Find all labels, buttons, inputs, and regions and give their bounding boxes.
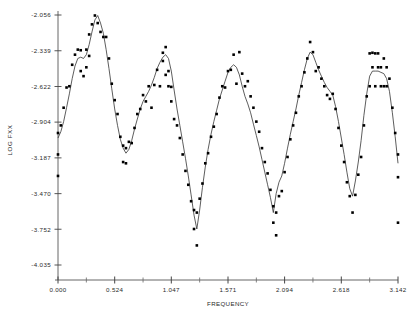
data-point-marker	[380, 85, 383, 88]
data-point-marker	[153, 84, 156, 87]
data-point-marker	[122, 144, 125, 147]
data-point-marker	[116, 113, 119, 116]
data-point-marker	[363, 124, 366, 127]
data-point-marker	[377, 52, 380, 55]
data-point-marker	[68, 85, 71, 88]
data-point-marker	[204, 162, 207, 165]
data-point-marker	[388, 77, 391, 80]
x-tick-label: 1.047	[163, 286, 180, 293]
data-point-marker	[62, 106, 65, 109]
data-point-marker	[108, 57, 111, 60]
data-point-marker	[326, 94, 329, 97]
y-tick-label: -2.056	[31, 11, 51, 18]
data-point-marker	[374, 85, 377, 88]
data-point-marker	[122, 161, 125, 164]
data-point-marker	[249, 95, 252, 98]
data-point-marker	[88, 33, 91, 36]
data-point-marker	[94, 14, 97, 17]
data-point-marker	[280, 190, 283, 193]
data-point-marker	[374, 52, 377, 55]
y-tick-label: -2.622	[31, 83, 51, 90]
data-point-marker	[303, 71, 306, 74]
data-point-marker	[314, 70, 317, 73]
data-point-marker	[139, 108, 142, 111]
y-tick-label: -3.470	[31, 190, 51, 197]
data-point-marker	[57, 175, 60, 178]
data-point-marker	[238, 51, 241, 54]
data-point-marker	[170, 100, 173, 103]
data-point-marker	[57, 153, 60, 156]
data-point-marker	[368, 52, 371, 55]
data-point-marker	[306, 57, 309, 60]
data-point-marker	[184, 170, 187, 173]
data-point-marker	[346, 181, 349, 184]
data-point-marker	[79, 49, 82, 52]
data-point-marker	[377, 66, 380, 69]
data-point-marker	[385, 85, 388, 88]
data-point-marker	[360, 156, 363, 159]
data-point-marker	[99, 31, 102, 34]
data-point-marker	[85, 48, 88, 51]
data-point-marker	[289, 138, 292, 141]
data-point-marker	[334, 108, 337, 111]
data-point-marker	[343, 161, 346, 164]
data-point-marker	[218, 96, 221, 99]
data-point-marker	[119, 135, 122, 138]
data-point-marker	[213, 125, 216, 128]
data-point-marker	[383, 57, 386, 60]
data-point-marker	[162, 60, 165, 63]
data-point-marker	[272, 205, 275, 208]
y-tick-label: -2.904	[31, 118, 51, 125]
data-point-marker	[385, 66, 388, 69]
data-point-marker	[297, 95, 300, 98]
data-point-marker	[207, 152, 210, 155]
data-point-marker	[394, 132, 397, 135]
data-point-marker	[198, 197, 201, 200]
data-point-marker	[77, 48, 80, 51]
data-point-marker	[266, 172, 269, 175]
data-point-marker	[196, 244, 199, 247]
y-tick-label: -2.339	[31, 47, 51, 54]
data-point-marker	[230, 69, 233, 72]
data-point-marker	[142, 94, 145, 97]
data-point-marker	[354, 194, 357, 197]
data-point-marker	[201, 182, 204, 185]
data-point-marker	[258, 130, 261, 133]
data-point-marker	[167, 85, 170, 88]
data-point-marker	[193, 228, 196, 231]
data-point-marker	[283, 171, 286, 174]
data-point-marker	[397, 153, 400, 156]
data-point-marker	[269, 189, 272, 192]
x-tick-label: 0.000	[49, 286, 66, 293]
chart-background	[0, 0, 408, 321]
data-point-marker	[162, 51, 165, 54]
data-point-marker	[272, 221, 275, 224]
data-point-marker	[85, 66, 88, 69]
data-point-marker	[150, 106, 153, 109]
data-point-marker	[145, 100, 148, 103]
data-point-marker	[65, 86, 68, 89]
data-point-marker	[380, 66, 383, 69]
data-point-marker	[91, 23, 94, 26]
data-point-marker	[113, 99, 116, 102]
data-point-marker	[179, 137, 182, 140]
y-tick-label: -3.187	[31, 154, 51, 161]
data-point-marker	[368, 85, 371, 88]
data-point-marker	[317, 66, 320, 69]
data-point-marker	[224, 86, 227, 89]
data-point-marker	[312, 51, 315, 54]
x-tick-label: 3.142	[389, 286, 406, 293]
data-point-marker	[357, 173, 360, 176]
data-point-marker	[136, 113, 139, 116]
data-point-marker	[371, 66, 374, 69]
data-point-marker	[331, 93, 334, 96]
data-point-marker	[252, 106, 255, 109]
data-point-marker	[340, 144, 343, 147]
data-point-marker	[170, 86, 173, 89]
data-point-marker	[181, 153, 184, 156]
data-point-marker	[105, 36, 108, 39]
data-point-marker	[232, 53, 235, 56]
data-point-marker	[133, 127, 136, 130]
data-point-marker	[210, 135, 213, 138]
data-point-marker	[156, 69, 159, 72]
